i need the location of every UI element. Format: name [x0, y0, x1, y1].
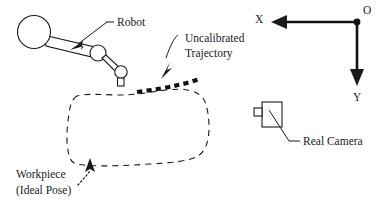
workpiece-outline	[67, 89, 209, 166]
robot-manipulator	[18, 16, 128, 87]
technical-diagram: Robot Workpiece (Ideal Pose) Uncalibrate…	[0, 0, 381, 208]
robot-end-effector	[118, 78, 125, 86]
trajectory-label-line1: Uncalibrated	[185, 32, 245, 44]
y-axis-label: Y	[353, 91, 362, 103]
camera-lens	[254, 108, 262, 116]
origin-dot	[354, 19, 361, 26]
trajectory-leader	[161, 35, 178, 79]
robot-label: Robot	[117, 16, 146, 28]
robot-base-circle	[18, 16, 51, 49]
robot-leader-line	[78, 22, 107, 44]
workpiece-leader-line	[78, 171, 90, 185]
x-axis-arrowhead	[271, 15, 287, 29]
y-axis-arrowhead	[350, 69, 364, 86]
workpiece-leader	[78, 158, 95, 185]
workpiece-label-line1: Workpiece	[16, 168, 66, 181]
robot-wrist-joint	[115, 66, 127, 78]
world-coordinate-frame	[271, 15, 364, 86]
trajectory-label-line2: Trajectory	[185, 47, 233, 60]
workpiece-label-line2: (Ideal Pose)	[16, 184, 71, 197]
trajectory-leader-line	[166, 35, 178, 58]
x-axis-label: X	[255, 13, 264, 25]
uncalibrated-trajectory	[137, 79, 199, 92]
workpiece-leader-arrowhead	[85, 158, 95, 172]
origin-label: O	[363, 4, 371, 16]
figure-canvas: Robot Workpiece (Ideal Pose) Uncalibrate…	[0, 0, 381, 208]
real-camera-label: Real Camera	[303, 135, 363, 147]
trajectory-leader-arrowhead	[161, 62, 172, 79]
robot-leader	[70, 22, 114, 50]
